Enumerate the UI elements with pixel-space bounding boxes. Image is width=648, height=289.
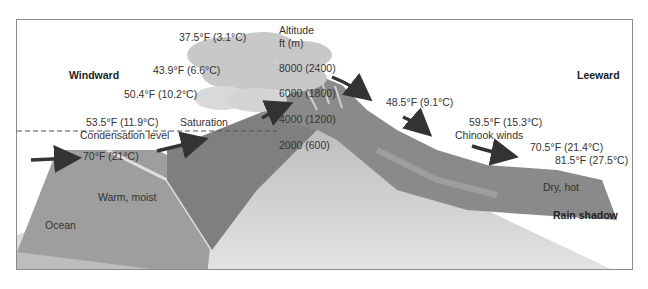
altitude-unit: ft (m) (279, 38, 304, 49)
dry-hot-label: Dry, hot (543, 182, 579, 193)
rain-shadow-label: Rain shadow (553, 210, 618, 221)
temp-50-4: 50.4°F (10.2°C) (124, 89, 197, 100)
warm-moist-label: Warm, moist (98, 192, 157, 203)
condensation-level-label: Condensation level (80, 130, 169, 141)
chinook-winds-label: Chinook winds (455, 130, 523, 141)
temp-70: 70°F (21°C) (83, 151, 139, 162)
temp-70-5: 70.5°F (21.4°C) (530, 142, 603, 153)
ocean-label: Ocean (45, 220, 76, 231)
windward-label: Windward (69, 70, 119, 81)
leeward-label: Leeward (577, 70, 620, 81)
temp-43-9: 43.9°F (6.6°C) (153, 65, 220, 76)
saturation-label: Saturation (180, 117, 228, 128)
arrow-downslope-3 (472, 146, 512, 156)
altitude-heading: Altitude (279, 25, 314, 36)
arrow-downslope-2 (403, 117, 427, 132)
arrow-onshore (31, 158, 75, 160)
altitude-2000: 2000 (600) (279, 140, 330, 151)
temp-59-5: 59.5°F (15.3°C) (469, 117, 542, 128)
temp-48-5: 48.5°F (9.1°C) (386, 97, 453, 108)
altitude-6000: 6000 (1800) (279, 88, 336, 99)
altitude-8000: 8000 (2400) (279, 63, 336, 74)
temp-53-5: 53.5°F (11.9°C) (86, 117, 158, 128)
temp-37-5: 37.5°F (3.1°C) (179, 32, 246, 43)
diagram-frame: Windward Leeward Altitude ft (m) 8000 (2… (16, 19, 633, 270)
temp-81-5: 81.5°F (27.5°C) (555, 155, 628, 166)
altitude-4000: 4000 (1200) (279, 114, 336, 125)
